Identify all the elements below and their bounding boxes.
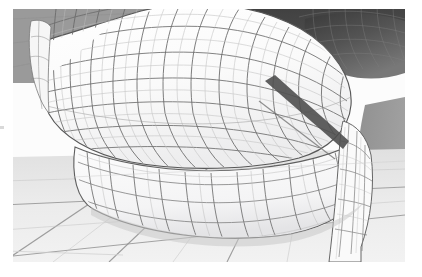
upper-body [41, 9, 351, 169]
figure-page [0, 0, 422, 277]
wireframe-render-figure [13, 9, 405, 262]
scan-edge-mark-left [0, 126, 4, 129]
render-canvas [13, 9, 405, 262]
